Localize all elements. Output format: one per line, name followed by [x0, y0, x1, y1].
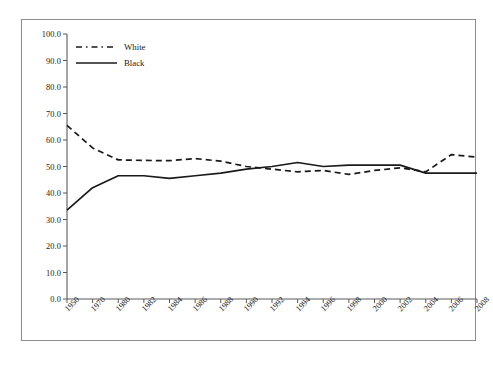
series-line-black	[67, 163, 477, 211]
y-axis-tick-label: 100.0	[25, 30, 61, 39]
y-axis-tick-label: 20.0	[25, 242, 61, 251]
y-axis-tick-label: 70.0	[25, 109, 61, 118]
data-series-group	[67, 125, 477, 210]
y-axis-tick-label: 30.0	[25, 215, 61, 224]
legend-swatches	[76, 47, 117, 63]
y-axis-tick-label: 10.0	[25, 268, 61, 277]
y-axis-tick-label: 90.0	[25, 56, 61, 65]
y-axis-tick-label: 40.0	[25, 189, 61, 198]
y-axis-tick-label: 80.0	[25, 83, 61, 92]
y-axis-tick-label: 60.0	[25, 136, 61, 145]
line-chart-plot	[0, 0, 493, 379]
legend-label-black: Black	[124, 58, 145, 68]
y-axis-tick-label: 50.0	[25, 162, 61, 171]
y-axis-ticks	[63, 34, 67, 299]
legend-label-white: White	[124, 42, 146, 52]
y-axis-tick-label: 0.0	[25, 295, 61, 304]
figure-container: 0.010.020.030.040.050.060.070.080.090.01…	[0, 0, 493, 379]
